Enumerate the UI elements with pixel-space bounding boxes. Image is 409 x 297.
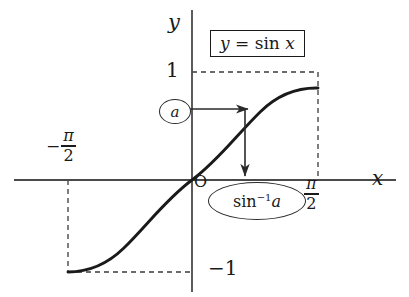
arcsin-argument: a: [271, 192, 281, 211]
y-tick-label-minus-one: −1: [208, 258, 237, 278]
fraction-numerator: π: [304, 176, 319, 192]
y-tick-label-one: 1: [166, 60, 179, 80]
equation-label-box: y = sin x: [210, 30, 305, 57]
sine-graph-figure: y x O 1 −1 − π 2 π 2 y = sin x a sin−1a: [0, 0, 409, 297]
y-axis-label: y: [168, 12, 180, 33]
fraction-stack: π 2: [304, 176, 319, 212]
fraction-denominator: 2: [304, 196, 318, 212]
fraction-stack: π 2: [61, 128, 76, 164]
callout-arcsin-a-expression: sin−1a: [233, 192, 281, 211]
fraction-denominator: 2: [61, 148, 75, 164]
equation-lhs: y: [220, 33, 230, 53]
equation-argument: x: [285, 33, 295, 53]
arcsin-function-name: sin: [233, 192, 257, 211]
callout-a-text: a: [171, 103, 180, 121]
equation-function: sin: [255, 33, 280, 53]
callout-a: a: [159, 99, 191, 124]
x-axis-label: x: [372, 168, 383, 188]
minus-sign: −: [46, 136, 60, 156]
equation-relation: =: [235, 33, 249, 53]
x-tick-label-negative-half-pi: − π 2: [46, 128, 76, 164]
arcsin-exponent: −1: [257, 191, 272, 202]
fraction-numerator: π: [61, 128, 76, 144]
origin-label: O: [194, 174, 207, 190]
callout-arcsin-a: sin−1a: [208, 182, 306, 220]
x-tick-label-positive-half-pi: π 2: [304, 176, 319, 212]
